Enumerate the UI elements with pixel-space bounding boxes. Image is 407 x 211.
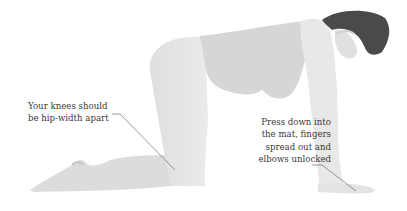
hands-annotation-line-2: the mat, fingers [235,128,331,140]
knees-annotation-line-2: be hip-width apart [28,112,109,124]
knees-annotation-line-1: Your knees should [28,100,109,112]
illustration-canvas: Your knees should be hip-width apart Pre… [0,0,407,211]
hands-annotation-line-3: spread out and [235,141,331,153]
knees-annotation: Your knees should be hip-width apart [28,100,109,125]
hands-annotation-line-1: Press down into [235,116,331,128]
hand-shape [318,183,375,193]
hands-annotation: Press down into the mat, fingers spread … [235,116,331,166]
shin-shape [30,155,170,192]
hands-annotation-line-4: elbows unlocked [235,153,331,165]
